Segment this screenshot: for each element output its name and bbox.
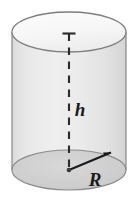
radius-label: R — [88, 169, 102, 190]
cylinder-figure: h R — [0, 0, 138, 206]
height-label: h — [75, 99, 86, 120]
cylinder-diagram-canvas: h R — [0, 0, 138, 206]
bottom-center-point — [67, 168, 72, 173]
top-ellipse — [12, 12, 126, 52]
cylinder-top-face — [12, 12, 126, 52]
